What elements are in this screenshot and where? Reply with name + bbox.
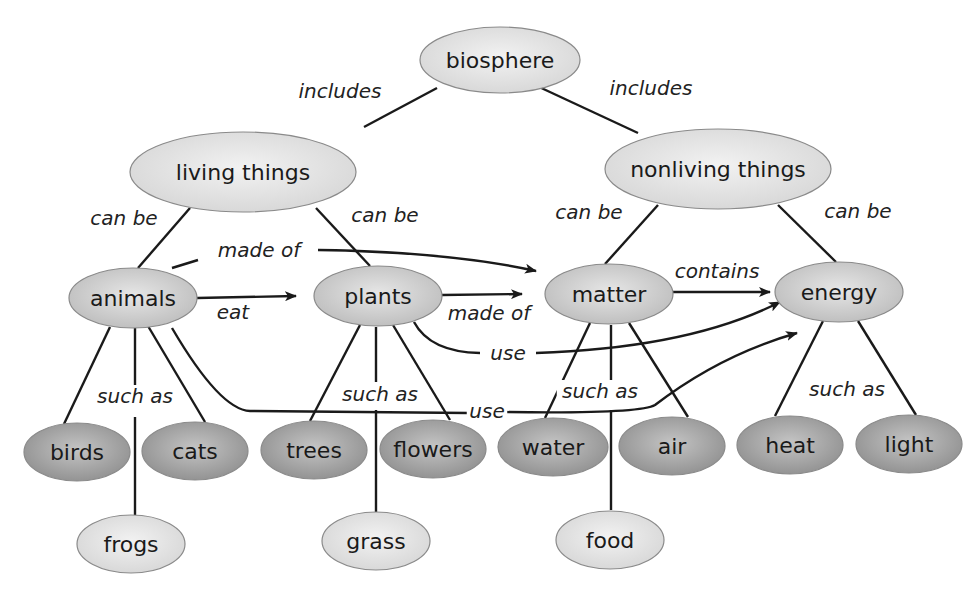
arrow-connector: [197, 296, 296, 298]
node-label: plants: [344, 284, 412, 309]
concept-map: biosphereliving thingsnonliving thingsan…: [0, 0, 975, 596]
node-living: living things: [130, 132, 356, 212]
node-label: flowers: [393, 437, 472, 462]
arrow-connector: [504, 333, 797, 412]
concept-map-canvas: biosphereliving thingsnonliving thingsan…: [0, 0, 975, 596]
node-label: heat: [765, 433, 815, 458]
link-label: such as: [342, 382, 418, 406]
node-label: frogs: [103, 532, 158, 557]
node-food: food: [556, 511, 664, 569]
node-label: biosphere: [446, 48, 555, 73]
link-label: can be: [90, 206, 157, 230]
node-frogs: frogs: [77, 515, 185, 573]
node-water: water: [498, 418, 608, 476]
node-air: air: [619, 417, 725, 475]
link-labels-layer: includesincludescan becan becan becan be…: [90, 76, 891, 423]
node-animals: animals: [69, 268, 197, 328]
line-connector: [310, 325, 360, 421]
node-light: light: [856, 415, 962, 473]
node-label: air: [658, 434, 688, 459]
link-label: such as: [97, 384, 173, 408]
link-label: such as: [809, 377, 885, 401]
nodes-layer: biosphereliving thingsnonliving thingsan…: [24, 27, 962, 573]
link-label: includes: [610, 76, 693, 100]
node-plants: plants: [314, 266, 442, 326]
node-flowers: flowers: [380, 420, 486, 478]
link-label: contains: [675, 259, 760, 283]
node-label: water: [522, 435, 586, 460]
node-heat: heat: [737, 416, 843, 474]
node-grass: grass: [322, 512, 430, 570]
node-label: animals: [90, 286, 176, 311]
node-label: living things: [176, 160, 310, 185]
node-nonliving: nonliving things: [605, 129, 831, 209]
line-connector: [775, 321, 823, 416]
link-label: eat: [217, 300, 251, 324]
node-label: light: [885, 432, 934, 457]
link-label: can be: [555, 200, 622, 224]
link-label: can be: [351, 203, 418, 227]
link-label: such as: [562, 379, 638, 403]
node-label: energy: [801, 280, 878, 305]
node-label: food: [586, 528, 635, 553]
node-label: trees: [286, 438, 342, 463]
node-trees: trees: [261, 421, 367, 479]
node-label: matter: [572, 282, 648, 307]
node-label: nonliving things: [630, 157, 806, 182]
node-cats: cats: [142, 422, 248, 480]
arrow-connector: [442, 294, 522, 295]
line-connector: [64, 327, 110, 424]
link-label: made of: [448, 301, 533, 325]
node-birds: birds: [24, 423, 130, 481]
link-label: use: [490, 341, 525, 365]
node-biosphere: biosphere: [420, 27, 580, 93]
link-label: made of: [218, 238, 303, 262]
line-connector: [414, 322, 480, 353]
node-label: grass: [346, 529, 405, 554]
line-connector: [545, 323, 590, 418]
node-label: birds: [50, 440, 104, 465]
link-label: includes: [299, 79, 382, 103]
node-matter: matter: [545, 264, 673, 324]
node-energy: energy: [775, 262, 903, 322]
node-label: cats: [172, 439, 218, 464]
line-connector: [172, 260, 198, 268]
arrow-connector: [318, 250, 536, 271]
link-label: use: [469, 399, 504, 423]
link-label: can be: [824, 199, 891, 223]
